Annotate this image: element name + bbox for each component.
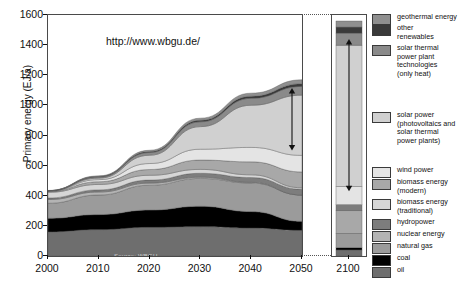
stacked-column-2100 — [332, 15, 366, 256]
legend-swatch — [372, 25, 391, 36]
x-tick-mark — [199, 255, 200, 259]
legend-swatch — [372, 45, 391, 56]
y-tick-label: 400 — [25, 189, 43, 201]
legend-label: hydropower — [397, 218, 473, 227]
legend-item[interactable]: solar power(photovoltaics andsolar therm… — [372, 111, 473, 145]
x-tick-mark — [250, 255, 251, 259]
legend-label: coal — [397, 254, 473, 263]
legend-swatch — [372, 179, 391, 190]
y-axis-ticks: 16001400120010008006004002000 — [0, 0, 43, 291]
x-tick-label: 2020 — [137, 262, 160, 274]
chart-figure: Primary energy (EJ/a) 160014001200100080… — [0, 0, 473, 291]
x-tick-label: 2050 — [289, 262, 312, 274]
legend-label: geothermal energy — [397, 13, 473, 22]
column-segment-coal — [336, 248, 362, 250]
stacked-area-series — [48, 15, 302, 256]
y-tick-label: 1400 — [20, 38, 43, 50]
legend-label: wind power — [397, 166, 473, 175]
x-tick-mark-2100 — [348, 255, 349, 259]
legend-item[interactable]: oil — [372, 266, 473, 278]
legend-swatch — [372, 267, 391, 278]
x-tick-mark — [47, 255, 48, 259]
x-tick-label: 2040 — [239, 262, 262, 274]
legend-item[interactable]: otherrenewables — [372, 24, 473, 41]
legend-swatch — [372, 255, 391, 266]
column-segment-geothermal — [336, 21, 362, 27]
column-segment-other — [336, 27, 362, 33]
x-tick-label: 2000 — [35, 262, 58, 274]
legend-label: oil — [397, 266, 473, 275]
legend-item[interactable]: solar thermalpower planttechnologies(onl… — [372, 44, 473, 78]
legend-item[interactable]: coal — [372, 254, 473, 266]
x-tick-mark — [149, 255, 150, 259]
x-tick-mark — [301, 255, 302, 259]
legend-label: biomass energy(traditional) — [397, 198, 473, 215]
y-tick-label: 1200 — [20, 68, 43, 80]
column-segment-oil — [336, 250, 362, 256]
area-oil — [48, 227, 302, 256]
connector-line-top — [302, 14, 331, 15]
y-tick-label: 800 — [25, 129, 43, 141]
legend-label: otherrenewables — [397, 24, 473, 41]
legend-swatch — [372, 199, 391, 210]
legend-item[interactable]: biomass energy(traditional) — [372, 198, 473, 215]
main-plot-area: http://www.wbgu.de/ Source: WBGU — [47, 14, 303, 257]
legend-swatch — [372, 231, 391, 242]
legend-item[interactable]: biomass energy(modern) — [372, 178, 473, 195]
legend-swatch — [372, 243, 391, 254]
y-tick-label: 1000 — [20, 98, 43, 110]
panel-2100 — [331, 14, 367, 257]
connector-line-bottom — [302, 255, 331, 256]
y-tick-label: 600 — [25, 159, 43, 171]
x-tick-label: 2010 — [86, 262, 109, 274]
legend: geothermal energyotherrenewablessolar th… — [372, 11, 473, 281]
url-annotation: http://www.wbgu.de/ — [106, 35, 200, 47]
legend-label: natural gas — [397, 242, 473, 251]
x-tick-label: 2030 — [188, 262, 211, 274]
column-segment-biomass — [336, 211, 362, 234]
legend-label: nuclear energy — [397, 230, 473, 239]
legend-swatch — [372, 112, 391, 123]
y-tick-label: 200 — [25, 219, 43, 231]
x-tick-label-2100: 2100 — [336, 262, 359, 274]
legend-label: biomass energy(modern) — [397, 178, 473, 195]
legend-swatch — [372, 167, 391, 178]
legend-swatch — [372, 219, 391, 230]
column-segment-hydropower — [336, 205, 362, 211]
legend-label: solar thermalpower planttechnologies(onl… — [397, 44, 473, 78]
source-note: Source: WBGU — [114, 253, 157, 257]
y-tick-label: 1600 — [20, 8, 43, 20]
x-tick-mark — [98, 255, 99, 259]
column-segment-natural — [336, 233, 362, 247]
legend-label: solar power(photovoltaics andsolar therm… — [397, 111, 473, 145]
legend-item[interactable]: natural gas — [372, 242, 473, 254]
